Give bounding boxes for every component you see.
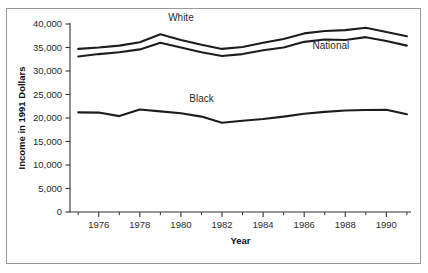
x-tick-label-1990: 1990	[376, 219, 397, 230]
line-chart-plot: 05,00010,00015,00020,00025,00030,00035,0…	[0, 0, 428, 273]
y-tick-label-10000: 10,000	[33, 159, 62, 170]
y-tick-label-0: 0	[57, 206, 62, 217]
y-tick-label-5000: 5,000	[38, 183, 62, 194]
series-label-national: National	[313, 40, 350, 51]
y-tick-label-20000: 20,000	[33, 112, 62, 123]
x-tick-label-1986: 1986	[294, 219, 315, 230]
series-label-black: Black	[189, 93, 214, 104]
x-axis-title: Year	[230, 235, 250, 246]
chart-figure: 05,00010,00015,00020,00025,00030,00035,0…	[0, 0, 428, 273]
x-tick-label-1984: 1984	[253, 219, 274, 230]
y-tick-label-30000: 30,000	[33, 65, 62, 76]
y-tick-label-15000: 15,000	[33, 136, 62, 147]
y-tick-label-40000: 40,000	[33, 18, 62, 29]
y-tick-label-35000: 35,000	[33, 42, 62, 53]
y-axis-title: Income in 1991 Dollars	[16, 67, 27, 170]
x-tick-label-1976: 1976	[88, 219, 109, 230]
x-axis-ticks: 19761978198019821984198619881990	[78, 212, 407, 230]
series-label-white: White	[168, 12, 194, 23]
x-tick-label-1980: 1980	[170, 219, 191, 230]
x-tick-label-1978: 1978	[129, 219, 150, 230]
series-line-black	[78, 110, 407, 123]
y-tick-label-25000: 25,000	[33, 89, 62, 100]
y-axis-ticks: 05,00010,00015,00020,00025,00030,00035,0…	[33, 18, 70, 217]
x-tick-label-1988: 1988	[335, 219, 356, 230]
x-tick-label-1982: 1982	[211, 219, 232, 230]
